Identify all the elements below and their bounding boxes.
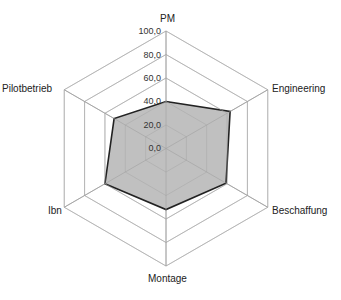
grid-overlay (64, 31, 268, 266)
tick-label-60: 60,0 (121, 73, 161, 83)
tick-label-100: 100,0 (121, 26, 161, 36)
category-label-ibn: Ibn (48, 205, 62, 217)
category-label-pm: PM (160, 13, 175, 25)
tick-label-40: 40,0 (121, 96, 161, 106)
tick-label-80: 80,0 (121, 50, 161, 60)
category-label-beschaffung: Beschaffung (272, 205, 327, 217)
tick-label-20: 20,0 (121, 120, 161, 130)
category-label-engineering: Engineering (272, 83, 325, 95)
radar-chart (0, 0, 341, 300)
category-label-montage: Montage (148, 273, 187, 285)
tick-label-0: 0,0 (121, 143, 161, 153)
category-label-pilotbetrieb: Pilotbetrieb (2, 83, 52, 95)
